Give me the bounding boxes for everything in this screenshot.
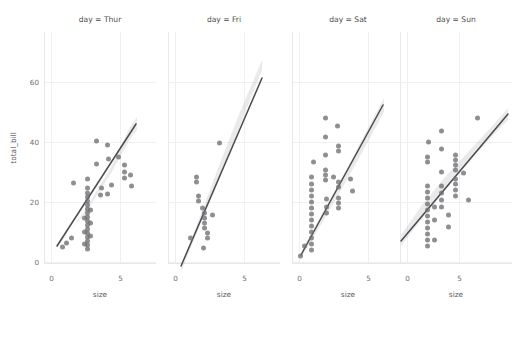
ytick-label: 60 <box>30 78 40 87</box>
lmplot-svg: day = Thur 0 5 size 0 20 40 60 total_bil… <box>0 0 515 337</box>
xaxis-label: size <box>217 290 232 299</box>
xtick-label: 5 <box>242 274 247 283</box>
panel-background-thur <box>44 32 156 263</box>
facet-panel-sat: day = Sat 0 5 size <box>292 15 404 299</box>
xtick-label: 5 <box>457 274 462 283</box>
xaxis-label: size <box>341 290 356 299</box>
ytick-label: 20 <box>30 198 40 207</box>
figure-canvas: day = Thur 0 5 size 0 20 40 60 total_bil… <box>0 0 515 337</box>
facet-title-fri: day = Fri <box>207 15 241 24</box>
ytick-label: 0 <box>34 258 39 267</box>
facet-panel-sun: day = Sun 0 5 size <box>400 15 512 299</box>
facet-panel-fri: day = Fri 0 5 size <box>168 15 280 299</box>
ytick-label: 40 <box>30 138 40 147</box>
xaxis-label: size <box>449 290 464 299</box>
xaxis-label: size <box>93 290 108 299</box>
xtick-label: 0 <box>49 274 54 283</box>
facet-title-sat: day = Sat <box>329 15 367 24</box>
xtick-label: 0 <box>405 274 410 283</box>
facet-panel-thur: day = Thur 0 5 size 0 20 40 60 total_bil… <box>9 15 156 299</box>
panel-background-sat <box>292 32 404 263</box>
xtick-label: 5 <box>118 274 123 283</box>
facet-title-sun: day = Sun <box>436 15 476 24</box>
xtick-label: 5 <box>366 274 371 283</box>
yaxis-label: total_bill <box>9 132 18 163</box>
facet-title-thur: day = Thur <box>79 15 122 24</box>
xtick-label: 0 <box>173 274 178 283</box>
xtick-label: 0 <box>297 274 302 283</box>
panel-background-fri <box>168 32 280 263</box>
panel-background-sun <box>400 32 512 263</box>
